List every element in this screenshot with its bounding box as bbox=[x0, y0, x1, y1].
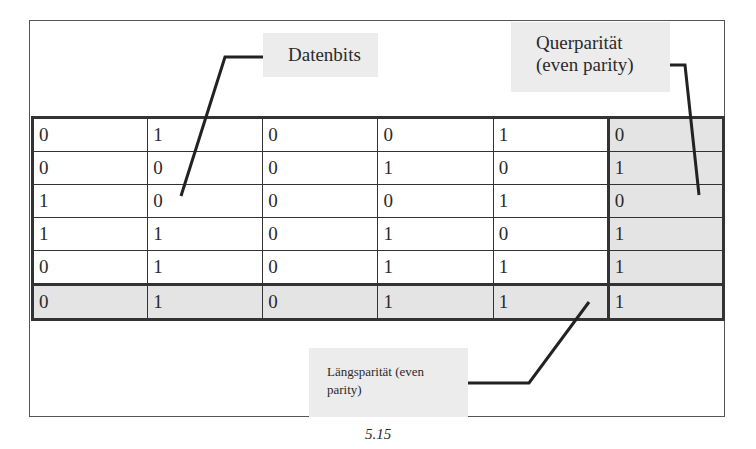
data-bit-cell: 0 bbox=[33, 251, 148, 285]
data-bit-cell: 0 bbox=[148, 185, 263, 218]
data-bit-cell: 1 bbox=[33, 218, 148, 251]
data-bit-cell: 0 bbox=[378, 118, 493, 152]
data-bit-cell: 1 bbox=[148, 218, 263, 251]
data-bit-cell: 1 bbox=[33, 185, 148, 218]
data-bit-cell: 0 bbox=[378, 185, 493, 218]
callout-datenbits: Datenbits bbox=[263, 33, 378, 77]
data-bit-cell: 0 bbox=[33, 152, 148, 185]
table-row: 0 1 0 1 1 1 bbox=[33, 251, 724, 285]
data-bit-cell: 0 bbox=[263, 185, 378, 218]
callout-datenbits-label: Datenbits bbox=[288, 44, 361, 66]
column-parity-cell: 1 bbox=[378, 285, 493, 320]
figure-caption: 5.15 bbox=[0, 426, 756, 443]
data-bit-cell: 1 bbox=[148, 118, 263, 152]
data-bit-cell: 0 bbox=[148, 152, 263, 185]
data-bit-cell: 0 bbox=[263, 251, 378, 285]
data-bit-cell: 1 bbox=[148, 251, 263, 285]
column-parity-cell: 0 bbox=[263, 285, 378, 320]
callout-laengsparitaet-line1: Längsparität (even bbox=[327, 363, 468, 381]
table-row: 1 0 0 0 1 0 bbox=[33, 185, 724, 218]
callout-querparitaet: Querparität (even parity) bbox=[511, 22, 670, 92]
corner-parity-cell: 1 bbox=[608, 285, 723, 320]
data-bit-cell: 1 bbox=[378, 152, 493, 185]
data-bit-cell: 1 bbox=[493, 251, 608, 285]
data-bit-cell: 0 bbox=[263, 152, 378, 185]
row-parity-cell: 1 bbox=[608, 251, 723, 285]
row-parity-cell: 1 bbox=[608, 152, 723, 185]
row-parity-cell: 0 bbox=[608, 118, 723, 152]
row-parity-cell: 1 bbox=[608, 218, 723, 251]
column-parity-cell: 1 bbox=[148, 285, 263, 320]
column-parity-cell: 0 bbox=[33, 285, 148, 320]
data-bit-cell: 1 bbox=[493, 118, 608, 152]
callout-querparitaet-line1: Querparität bbox=[536, 32, 670, 54]
data-bit-cell: 0 bbox=[263, 218, 378, 251]
table-row: 0 0 0 1 0 1 bbox=[33, 152, 724, 185]
data-bit-cell: 0 bbox=[493, 218, 608, 251]
data-bit-cell: 1 bbox=[493, 185, 608, 218]
data-bit-cell: 0 bbox=[263, 118, 378, 152]
row-parity-cell: 0 bbox=[608, 185, 723, 218]
column-parity-cell: 1 bbox=[493, 285, 608, 320]
data-bit-cell: 0 bbox=[493, 152, 608, 185]
table-row: 1 1 0 1 0 1 bbox=[33, 218, 724, 251]
column-parity-row: 0 1 0 1 1 1 bbox=[33, 285, 724, 320]
callout-querparitaet-line2: (even parity) bbox=[536, 54, 670, 76]
data-bit-cell: 0 bbox=[33, 118, 148, 152]
callout-laengsparitaet-line2: parity) bbox=[327, 381, 468, 399]
parity-table: 0 1 0 0 1 0 0 0 0 1 0 1 1 0 0 0 1 0 1 1 … bbox=[31, 116, 725, 321]
data-bit-cell: 1 bbox=[378, 218, 493, 251]
data-bit-cell: 1 bbox=[378, 251, 493, 285]
callout-laengsparitaet: Längsparität (even parity) bbox=[309, 348, 468, 417]
table-row: 0 1 0 0 1 0 bbox=[33, 118, 724, 152]
